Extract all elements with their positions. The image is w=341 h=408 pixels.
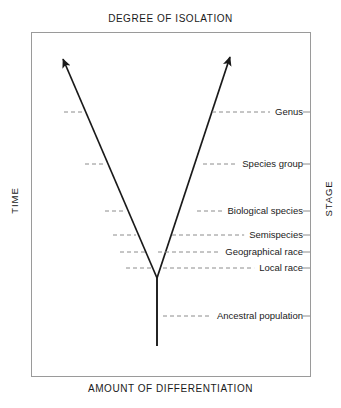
stage-row: Genus (0, 105, 303, 119)
stage-label: Genus (275, 105, 303, 119)
stage-row: Biological species (0, 204, 303, 218)
stage-label: Biological species (227, 204, 303, 218)
evolution-divergence-diagram: DEGREE OF ISOLATION TIME STAGE GenusSpec… (0, 0, 341, 408)
stage-label: Semispecies (249, 228, 303, 242)
stage-row: Ancestral population (0, 309, 303, 323)
stage-row: Semispecies (0, 228, 303, 242)
stage-label: Local race (259, 261, 303, 275)
bottom-axis-title: AMOUNT OF DIFFERENTIATION (0, 383, 341, 394)
stage-label: Ancestral population (217, 309, 303, 323)
stage-row: Geographical race (0, 245, 303, 259)
stage-row: Species group (0, 157, 303, 171)
stage-label: Species group (242, 157, 303, 171)
phylogeny-lines (63, 57, 230, 346)
stage-tick-marks (303, 112, 310, 316)
stage-row: Local race (0, 261, 303, 275)
stage-label: Geographical race (225, 245, 303, 259)
